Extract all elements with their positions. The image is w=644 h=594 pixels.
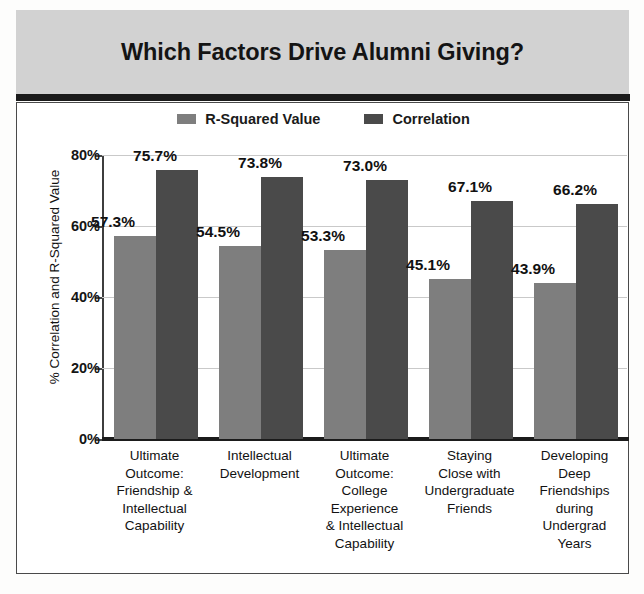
legend-item-label: R-Squared Value bbox=[205, 111, 320, 127]
bar-correlation bbox=[156, 170, 198, 439]
legend-item-label: Correlation bbox=[392, 111, 469, 127]
x-axis-category-label: Developing Deep Friendships during Under… bbox=[522, 447, 627, 552]
y-axis-title: % Correlation and R-Squared Value bbox=[47, 127, 62, 427]
bar-r-squared bbox=[114, 236, 156, 439]
y-axis-tick-label: 80% bbox=[40, 147, 100, 163]
gridline bbox=[102, 155, 627, 156]
plot-area: 0%20%40%60%80%57.3%75.7%54.5%73.8%53.3%7… bbox=[102, 155, 627, 439]
bar-r-squared bbox=[429, 279, 471, 439]
x-axis-category-label: Ultimate Outcome: Friendship & Intellect… bbox=[102, 447, 207, 535]
bar-correlation bbox=[576, 204, 618, 439]
bar-r-squared bbox=[324, 250, 366, 439]
bar-value-label: 57.3% bbox=[91, 213, 135, 231]
bar-value-label: 43.9% bbox=[511, 260, 555, 278]
chart-legend: R-Squared ValueCorrelation bbox=[17, 111, 630, 127]
bar-correlation bbox=[366, 180, 408, 439]
bar-value-label: 54.5% bbox=[196, 223, 240, 241]
bar-value-label: 67.1% bbox=[448, 178, 492, 196]
bar-value-label: 73.0% bbox=[343, 157, 387, 175]
page-title: Which Factors Drive Alumni Giving? bbox=[121, 39, 524, 66]
bar-value-label: 75.7% bbox=[133, 147, 177, 165]
legend-item-2: Correlation bbox=[364, 111, 469, 127]
bar-correlation bbox=[261, 177, 303, 439]
bar-correlation bbox=[471, 201, 513, 439]
x-axis-category-label: Staying Close with Undergraduate Friends bbox=[417, 447, 522, 517]
y-axis-tick-label: 0% bbox=[40, 431, 100, 447]
legend-item-1: R-Squared Value bbox=[177, 111, 320, 127]
chart-figure: Which Factors Drive Alumni Giving? R-Squ… bbox=[0, 0, 644, 594]
x-axis-category-label: Intellectual Development bbox=[207, 447, 312, 482]
bar-value-label: 45.1% bbox=[406, 256, 450, 274]
y-axis-tick-label: 20% bbox=[40, 360, 100, 376]
x-axis-category-labels: Ultimate Outcome: Friendship & Intellect… bbox=[102, 447, 629, 567]
legend-swatch-icon bbox=[177, 114, 196, 124]
title-band: Which Factors Drive Alumni Giving? bbox=[16, 10, 629, 94]
x-axis-category-label: Ultimate Outcome: College Experience & I… bbox=[312, 447, 417, 552]
bar-value-label: 66.2% bbox=[553, 181, 597, 199]
legend-swatch-icon bbox=[364, 114, 383, 124]
chart-frame: R-Squared ValueCorrelation % Correlation… bbox=[16, 102, 629, 574]
bar-value-label: 73.8% bbox=[238, 154, 282, 172]
bar-r-squared bbox=[219, 246, 261, 439]
bar-r-squared bbox=[534, 283, 576, 439]
bar-value-label: 53.3% bbox=[301, 227, 345, 245]
y-axis-tick-label: 40% bbox=[40, 289, 100, 305]
title-divider bbox=[16, 94, 630, 101]
